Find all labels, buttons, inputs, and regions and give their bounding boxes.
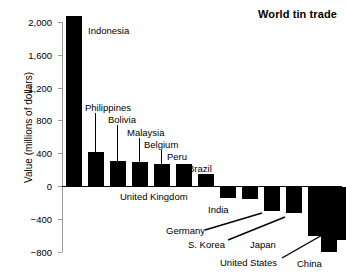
y-tick-label-minus-400: −400 [31, 214, 52, 225]
leader-united-states [282, 234, 328, 260]
y-tick-label-2000: 2,000 [28, 17, 52, 28]
leader-bolivia [117, 125, 118, 161]
bar-s-korea [286, 187, 302, 213]
y-tick-label-minus-800: −800 [31, 247, 52, 258]
y-tick-0: 0 [58, 186, 62, 187]
bar-germany [264, 187, 280, 211]
y-tick-800: 800 [58, 120, 62, 121]
y-tick-minus-800: −800 [58, 252, 62, 253]
y-axis-title: Value (millions of dollars) [23, 43, 34, 213]
label-indonesia: Indonesia [88, 26, 129, 36]
label-belgium: Belgium [144, 140, 178, 150]
y-tick-label-0: 0 [47, 181, 52, 192]
bar-brazil [198, 174, 214, 186]
chart-title: World tin trade [258, 8, 337, 20]
label-peru: Peru [167, 152, 187, 162]
label-s-korea: S. Korea [188, 240, 225, 250]
bar-united-kingdom [220, 187, 236, 198]
y-tick-label-800: 800 [36, 115, 52, 126]
label-bolivia: Bolivia [108, 115, 136, 125]
y-tick-label-400: 400 [36, 148, 52, 159]
label-china: China [297, 259, 322, 269]
leader-belgium [161, 150, 162, 164]
label-germany: Germany [166, 226, 205, 236]
label-japan: Japan [250, 240, 276, 250]
y-tick-1600: 1,600 [58, 55, 62, 56]
bar-malaysia [132, 162, 148, 186]
y-axis-spine [62, 22, 63, 252]
bar-philippines [88, 152, 104, 186]
bar-indonesia [66, 16, 82, 186]
label-philippines: Philippines [85, 103, 131, 113]
label-united-states: United States [220, 258, 277, 268]
y-tick-label-1600: 1,600 [28, 50, 52, 61]
bar-india [242, 187, 258, 199]
y-tick-2000: 2,000 [58, 22, 62, 23]
label-united-kingdom: United Kingdom [120, 192, 188, 202]
y-tick-minus-400: −400 [58, 219, 62, 220]
bar-belgium [154, 164, 170, 186]
y-tick-400: 400 [58, 153, 62, 154]
y-tick-1200: 1,200 [58, 88, 62, 89]
leader-malaysia [139, 138, 140, 162]
label-malaysia: Malaysia [127, 128, 165, 138]
plot-area: 2,000 1,600 1,200 800 400 0 −400 −800 [62, 22, 342, 252]
label-brazil: Brazil [188, 164, 212, 174]
bar-bolivia [110, 161, 126, 186]
y-tick-label-1200: 1,200 [28, 83, 52, 94]
leader-philippines [95, 113, 96, 152]
